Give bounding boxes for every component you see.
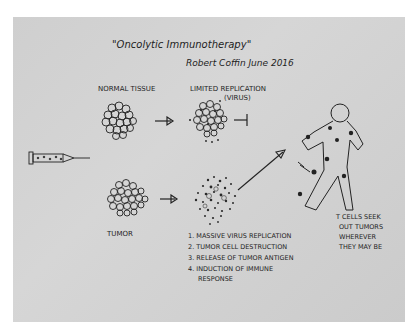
step-4-cont: RESPONSE: [198, 275, 233, 283]
normal-tissue-cluster-icon: [102, 102, 137, 140]
step-1: 1. MASSIVE VIRUS REPLICATION: [188, 232, 292, 240]
steps-list: 1. MASSIVE VIRUS REPLICATION 2. TUMOR CE…: [188, 232, 294, 283]
limited-replication-cluster-icon: [194, 101, 228, 138]
tcell-note-line-4: THEY MAY BE: [338, 243, 382, 251]
normal-tissue-label: NORMAL TISSUE: [98, 85, 155, 93]
tumor-cluster-icon: [108, 180, 149, 217]
destroyed-tumor-scatter-icon: [195, 176, 236, 225]
tcell-note-line-2: OUT TUMORS: [339, 223, 383, 231]
tcell-note: T CELLS SEEK OUT TUMORS WHEREVER THEY MA…: [335, 213, 383, 251]
signature-text: Robert Coffin June 2016: [186, 58, 294, 68]
human-body-icon: [302, 104, 363, 210]
diagonal-arrow-icon: [238, 150, 285, 190]
step-3: 3. RELEASE OF TUMOR ANTIGEN: [188, 254, 294, 262]
step-4: 4. INDUCTION OF IMMUNE: [188, 265, 273, 273]
inhibition-icon: [234, 114, 247, 126]
sketch: "Oncolytic Immunotherapy" Robert Coffin …: [0, 0, 418, 332]
tumor-spots-icon: [298, 126, 353, 196]
fragment-outlines: [203, 187, 226, 208]
arrow-icon: [155, 117, 173, 125]
virus-label: (VIRUS): [224, 94, 251, 102]
limited-replication-label: LIMITED REPLICATION: [190, 85, 266, 93]
syringe-icon: [29, 152, 90, 164]
tcell-icon: [298, 162, 310, 172]
step-2: 2. TUMOR CELL DESTRUCTION: [188, 243, 287, 251]
title-text: "Oncolytic Immunotherapy": [112, 39, 251, 50]
tumor-label: TUMOR: [106, 230, 133, 238]
tcell-note-line-1: T CELLS SEEK: [335, 213, 381, 221]
tcell-note-line-3: WHEREVER: [339, 233, 377, 241]
arrow-icon: [160, 195, 177, 203]
